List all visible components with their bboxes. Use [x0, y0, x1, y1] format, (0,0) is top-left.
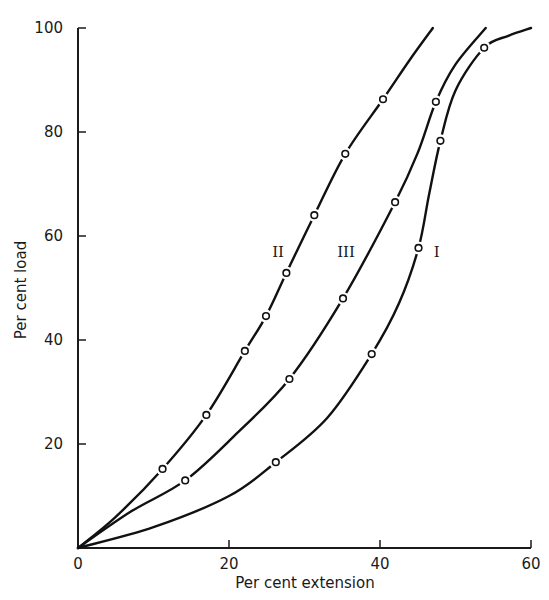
- data-point-marker: [340, 295, 347, 302]
- data-point-marker: [342, 151, 349, 158]
- data-point-marker: [415, 245, 422, 252]
- y-tick-label: 20: [44, 435, 63, 453]
- data-point-marker: [286, 376, 293, 383]
- x-tick-label: 0: [73, 555, 83, 573]
- curve-label-ii: II: [272, 243, 284, 261]
- curve-iii: [78, 28, 486, 548]
- data-point-marker: [433, 99, 440, 106]
- y-axis-title: Per cent load: [12, 241, 30, 339]
- data-point-marker: [242, 348, 249, 355]
- y-tick-label: 80: [44, 123, 63, 141]
- axes: 020406020406080100: [34, 19, 540, 573]
- curves: [78, 28, 531, 548]
- y-tick-label: 100: [34, 19, 63, 37]
- x-axis-title: Per cent extension: [235, 574, 374, 592]
- y-tick-label: 40: [44, 331, 63, 349]
- curve-label-i: I: [434, 243, 440, 261]
- data-point-marker: [273, 459, 280, 466]
- y-tick-label: 60: [44, 227, 63, 245]
- data-point-marker: [368, 351, 375, 358]
- data-point-marker: [481, 44, 488, 51]
- x-tick-label: 40: [370, 555, 389, 573]
- data-point-marker: [380, 96, 387, 103]
- data-point-marker: [437, 138, 444, 145]
- chart: 020406020406080100 IIIIII Per cent exten…: [0, 0, 549, 600]
- data-point-marker: [263, 313, 270, 320]
- curve-i: [78, 28, 531, 548]
- data-point-marker: [203, 412, 210, 419]
- data-point-marker: [182, 477, 189, 484]
- x-tick-label: 20: [219, 555, 238, 573]
- data-point-marker: [159, 466, 166, 473]
- data-point-marker: [283, 270, 290, 277]
- data-point-marker: [392, 199, 399, 206]
- curve-ii: [78, 28, 433, 548]
- curve-label-iii: III: [337, 243, 355, 261]
- x-tick-label: 60: [521, 555, 540, 573]
- data-markers: [156, 41, 491, 487]
- data-point-marker: [311, 212, 318, 219]
